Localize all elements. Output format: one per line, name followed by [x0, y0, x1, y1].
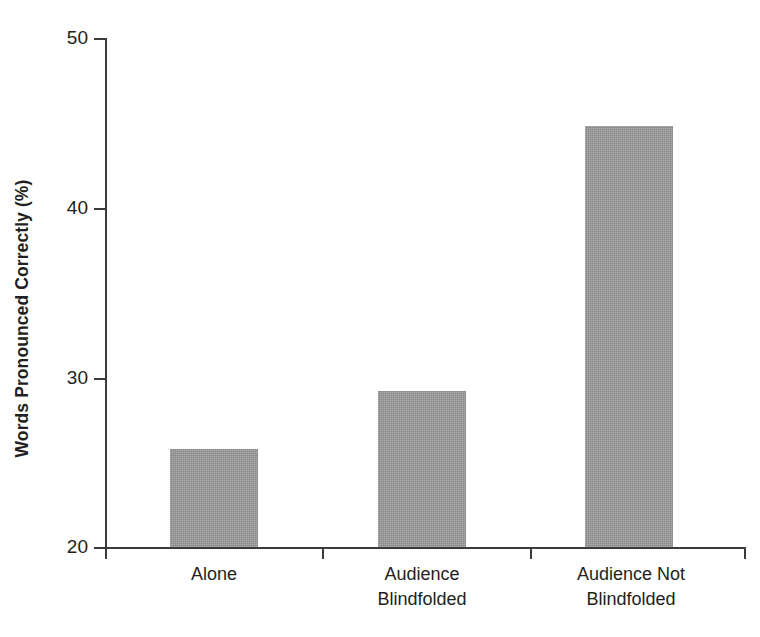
y-tick-label-40: 40 [34, 198, 88, 217]
y-axis-line [105, 38, 107, 549]
bar-audience-blindfolded [378, 391, 466, 547]
x-label-alone: Alone [144, 562, 284, 587]
y-tick-label-30: 30 [34, 368, 88, 387]
y-tick-mark-40 [94, 208, 105, 210]
x-tick-mark-1 [322, 547, 324, 559]
x-tick-mark-start [105, 547, 107, 559]
x-tick-mark-2 [530, 547, 532, 559]
y-tick-mark-30 [94, 378, 105, 380]
x-tick-mark-end [744, 547, 746, 559]
y-tick-mark-20 [94, 547, 105, 549]
x-axis-line [105, 547, 746, 549]
bar-audience-not-blindfolded [585, 126, 673, 547]
x-label-audience-blindfolded: Audience Blindfolded [352, 562, 492, 612]
y-tick-label-20: 20 [34, 537, 88, 556]
x-label-audience-not-blindfolded: Audience Not Blindfolded [556, 562, 706, 612]
bar-chart: Words Pronounced Correctly (%) 50 40 30 … [0, 0, 760, 637]
bar-alone [170, 449, 258, 547]
y-tick-mark-50 [94, 38, 105, 40]
y-tick-label-50: 50 [34, 28, 88, 47]
